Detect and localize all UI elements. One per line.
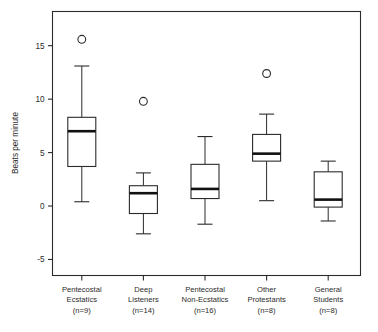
- x-axis: PentecostalEcstatics(n=9)DeepListeners(n…: [62, 276, 343, 315]
- box-iqr: [129, 186, 157, 214]
- box-plot-item: [129, 97, 157, 233]
- x-category-label: DeepListeners(n=14): [128, 285, 159, 315]
- outlier-point: [78, 35, 86, 43]
- plot-frame: [53, 12, 361, 276]
- box-plot-item: [314, 161, 342, 221]
- chart-canvas: -5051015 PentecostalEcstatics(n=9)DeepLi…: [0, 0, 378, 332]
- y-tick-label: 10: [35, 95, 45, 104]
- y-axis-title: Beats per minute: [11, 112, 20, 174]
- y-tick-label: 0: [40, 202, 45, 211]
- box-plot-item: [68, 35, 96, 201]
- y-axis-title-text: Beats per minute: [11, 112, 20, 174]
- y-axis: -5051015: [35, 42, 52, 265]
- box-iqr: [68, 117, 96, 166]
- x-category-label: PentecostalNon-Ecstatics(n=16): [182, 285, 229, 315]
- box-plot-item: [253, 70, 281, 201]
- box-iqr: [314, 172, 342, 207]
- x-category-label: PentecostalEcstatics(n=9): [62, 285, 102, 315]
- box-series: [68, 35, 342, 233]
- x-category-label: OtherProtestants(n=8): [247, 285, 286, 315]
- box-iqr: [253, 134, 281, 161]
- x-category-label: GeneralStudents(n=8): [313, 285, 343, 315]
- outlier-point: [140, 97, 148, 105]
- box-iqr: [191, 164, 219, 198]
- box-plot-item: [191, 137, 219, 225]
- y-tick-label: -5: [37, 255, 45, 264]
- y-tick-label: 15: [35, 42, 45, 51]
- boxplot-chart: -5051015 PentecostalEcstatics(n=9)DeepLi…: [0, 0, 378, 332]
- outlier-point: [263, 70, 271, 78]
- y-tick-label: 5: [40, 149, 45, 158]
